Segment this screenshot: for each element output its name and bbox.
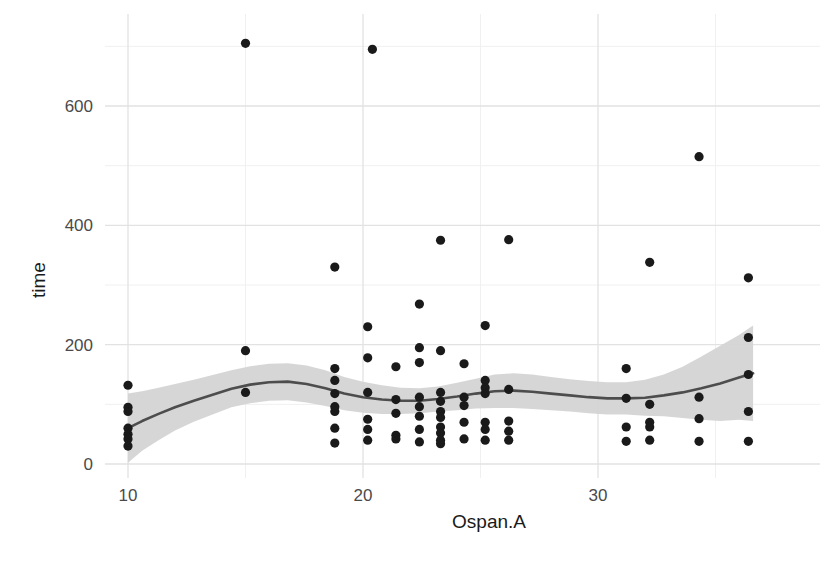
data-point <box>363 415 372 424</box>
data-point <box>459 359 468 368</box>
data-point <box>363 425 372 434</box>
data-point <box>436 397 445 406</box>
data-point <box>622 394 631 403</box>
data-point <box>744 437 753 446</box>
data-point <box>391 362 400 371</box>
data-point <box>415 393 424 402</box>
y-axis-title: time <box>28 262 49 298</box>
data-point <box>241 39 250 48</box>
data-point <box>368 45 377 54</box>
data-point <box>504 235 513 244</box>
data-point <box>415 358 424 367</box>
data-point <box>744 370 753 379</box>
y-tick-label: 0 <box>84 455 93 474</box>
y-tick-label: 600 <box>65 97 93 116</box>
data-point <box>241 388 250 397</box>
data-point <box>123 407 132 416</box>
data-point <box>330 364 339 373</box>
data-point <box>481 436 490 445</box>
data-point <box>415 437 424 446</box>
data-point <box>622 437 631 446</box>
data-point <box>363 436 372 445</box>
data-point <box>391 434 400 443</box>
chart-canvas: 102030 0200400600 Ospan.A time <box>0 0 833 567</box>
data-point <box>504 385 513 394</box>
data-point <box>391 395 400 404</box>
data-point <box>391 409 400 418</box>
data-point <box>694 393 703 402</box>
data-point <box>645 258 654 267</box>
data-point <box>694 414 703 423</box>
x-tick-label: 10 <box>119 486 138 505</box>
data-point <box>622 364 631 373</box>
data-point <box>622 422 631 431</box>
data-point <box>330 263 339 272</box>
data-point <box>330 424 339 433</box>
x-tick-label: 30 <box>589 486 608 505</box>
data-point <box>436 439 445 448</box>
data-point <box>330 439 339 448</box>
scatter-plot-figure: 102030 0200400600 Ospan.A time <box>0 0 833 567</box>
data-point <box>504 416 513 425</box>
data-point <box>415 343 424 352</box>
data-point <box>330 407 339 416</box>
data-point <box>504 427 513 436</box>
data-point <box>436 236 445 245</box>
x-axis-title: Ospan.A <box>452 511 526 532</box>
data-point <box>436 346 445 355</box>
data-point <box>744 333 753 342</box>
data-point <box>744 407 753 416</box>
y-tick-label: 200 <box>65 336 93 355</box>
data-point <box>459 418 468 427</box>
data-point <box>241 346 250 355</box>
data-point <box>123 442 132 451</box>
data-point <box>481 321 490 330</box>
data-point <box>436 413 445 422</box>
data-point <box>459 434 468 443</box>
data-point <box>459 401 468 410</box>
data-point <box>330 376 339 385</box>
y-tick-label: 400 <box>65 216 93 235</box>
data-point <box>481 389 490 398</box>
data-point <box>694 437 703 446</box>
data-point <box>459 393 468 402</box>
x-tick-label: 20 <box>354 486 373 505</box>
data-point <box>415 299 424 308</box>
data-point <box>436 388 445 397</box>
data-point <box>330 389 339 398</box>
data-point <box>363 322 372 331</box>
data-point <box>415 425 424 434</box>
data-point <box>123 381 132 390</box>
data-point <box>415 402 424 411</box>
data-point <box>481 425 490 434</box>
data-point <box>363 353 372 362</box>
data-point <box>694 152 703 161</box>
data-point <box>744 273 753 282</box>
data-point <box>645 400 654 409</box>
data-point <box>504 436 513 445</box>
data-point <box>363 388 372 397</box>
data-point <box>645 422 654 431</box>
data-point <box>645 436 654 445</box>
data-point <box>415 412 424 421</box>
